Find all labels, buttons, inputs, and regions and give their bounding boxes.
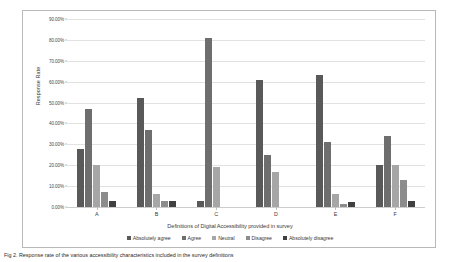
y-tick-label: 40.00% <box>49 121 64 126</box>
bar <box>392 165 399 207</box>
bar-group-e: E <box>306 19 366 207</box>
bar <box>400 180 407 207</box>
bar <box>264 155 271 207</box>
y-tick-label: 30.00% <box>49 142 64 147</box>
legend-label: Neutral <box>218 235 234 241</box>
bar <box>145 130 152 207</box>
legend-item-disagree[interactable]: Disagree <box>246 235 272 241</box>
bar <box>85 109 92 207</box>
y-tick-label: 20.00% <box>49 163 64 168</box>
plot-area: 90.00%80.00%70.00%60.00%50.00%40.00%30.0… <box>67 19 425 207</box>
bar <box>137 98 144 207</box>
y-tick-label: 0.00% <box>51 205 64 210</box>
bar <box>316 75 323 207</box>
bar <box>213 167 220 207</box>
x-tick-label-d: D <box>246 211 306 217</box>
y-tick-label: 80.00% <box>49 37 64 42</box>
bar <box>340 204 347 207</box>
bar-group-f: F <box>365 19 425 207</box>
legend-swatch-icon <box>246 236 250 240</box>
bar-group-b: B <box>127 19 187 207</box>
legend-swatch-icon <box>182 236 186 240</box>
figure-container: Response Rate 90.00%80.00%70.00%60.00%50… <box>0 0 458 262</box>
x-tick-mark <box>97 207 98 210</box>
y-tick-label: 70.00% <box>49 58 64 63</box>
legend-swatch-icon <box>127 236 131 240</box>
chart-legend: Absolutely agreeAgreeNeutralDisagreeAbso… <box>23 235 437 241</box>
x-tick-mark <box>335 207 336 210</box>
bar <box>348 202 355 207</box>
x-tick-label-c: C <box>186 211 246 217</box>
bar <box>169 201 176 207</box>
bar <box>384 136 391 207</box>
x-tick-label-f: F <box>365 211 425 217</box>
bar-group-c: C <box>186 19 246 207</box>
bar <box>161 201 168 207</box>
gridline <box>67 207 425 208</box>
bar <box>93 165 100 207</box>
bar <box>109 201 116 207</box>
figure-caption: Fig 2. Response rate of the various acce… <box>4 252 454 262</box>
chart-frame: Response Rate 90.00%80.00%70.00%60.00%50… <box>22 10 436 248</box>
x-tick-mark <box>216 207 217 210</box>
bar <box>77 149 84 207</box>
bar <box>205 38 212 207</box>
y-tick-label: 60.00% <box>49 79 64 84</box>
bar-group-a: A <box>67 19 127 207</box>
y-tick-label: 50.00% <box>49 100 64 105</box>
bar <box>272 172 279 208</box>
x-tick-mark <box>395 207 396 210</box>
legend-label: Absolutely agree <box>133 235 171 241</box>
legend-label: Agree <box>188 235 202 241</box>
y-tick-label: 10.00% <box>49 184 64 189</box>
legend-item-agree[interactable]: Agree <box>182 235 202 241</box>
bar-group-d: D <box>246 19 306 207</box>
bar <box>101 192 108 207</box>
x-tick-label-b: B <box>127 211 187 217</box>
y-tick-label: 90.00% <box>49 17 64 22</box>
bar <box>153 194 160 207</box>
legend-label: Disagree <box>252 235 272 241</box>
x-tick-mark <box>156 207 157 210</box>
legend-item-absolutely-agree[interactable]: Absolutely agree <box>127 235 171 241</box>
bar <box>376 165 383 207</box>
x-axis-title: Definitions of Digital Accessibility pro… <box>23 223 437 229</box>
x-tick-label-a: A <box>67 211 127 217</box>
legend-swatch-icon <box>212 236 216 240</box>
bar <box>332 194 339 207</box>
bar <box>408 201 415 207</box>
x-tick-mark <box>276 207 277 210</box>
bar <box>256 80 263 207</box>
x-tick-label-e: E <box>306 211 366 217</box>
legend-label: Absolutely disagree <box>289 235 333 241</box>
bar <box>324 142 331 207</box>
legend-item-neutral[interactable]: Neutral <box>212 235 234 241</box>
legend-item-absolutely-disagree[interactable]: Absolutely disagree <box>283 235 333 241</box>
bar <box>197 201 204 207</box>
y-axis-title: Response Rate <box>35 41 41 131</box>
legend-swatch-icon <box>283 236 287 240</box>
